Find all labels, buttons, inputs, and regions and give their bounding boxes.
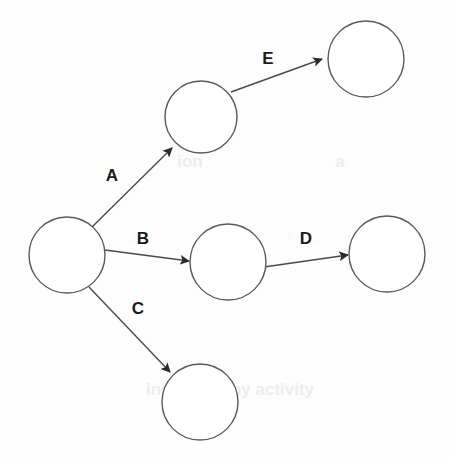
edge-label-a: A [106,166,118,185]
edge-e-line[interactable] [231,59,322,92]
bleed-text-0: ion [177,152,203,171]
edge-a-line[interactable] [92,148,172,227]
node-n4[interactable] [190,224,266,300]
edge-label-c: C [132,299,144,318]
nodes-group [29,21,425,440]
bleed-text-1: a [335,152,345,171]
edge-d-line[interactable] [264,255,348,267]
activity-network-diagram: ion a ing a dummy activity A B C D [0,0,450,460]
edge-b-line[interactable] [105,250,189,261]
diagram-canvas: ion a ing a dummy activity A B C D [0,0,450,460]
node-n6[interactable] [162,364,238,440]
edge-c-line[interactable] [89,287,170,372]
node-n3[interactable] [328,21,404,97]
node-n1[interactable] [29,217,105,293]
node-n5[interactable] [349,216,425,292]
edge-label-b: B [137,229,149,248]
edge-label-e: E [262,49,273,68]
edge-label-d: D [300,229,312,248]
node-n2[interactable] [165,81,237,153]
